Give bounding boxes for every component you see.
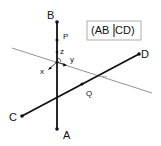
skew-lines-diagram: B A C D P Q z x y (AB CD) [0, 0, 161, 146]
notation-left: (AB [91, 24, 109, 36]
notation-right: CD) [115, 24, 135, 36]
y-arrow-head-icon [63, 63, 67, 67]
label-z: z [60, 47, 64, 56]
line-cd [22, 54, 139, 116]
label-c: C [9, 111, 17, 123]
label-q: Q [86, 89, 92, 98]
label-x: x [40, 67, 44, 76]
point-q [81, 83, 84, 86]
thin-line [12, 48, 152, 93]
label-p: P [63, 32, 68, 41]
point-z [56, 51, 59, 54]
label-y: y [70, 55, 74, 64]
point-a [55, 127, 59, 131]
label-d: D [141, 48, 149, 60]
label-a: A [63, 129, 71, 141]
point-c [20, 114, 24, 118]
label-b: B [47, 9, 54, 21]
point-p [56, 39, 59, 42]
point-b [55, 20, 59, 24]
